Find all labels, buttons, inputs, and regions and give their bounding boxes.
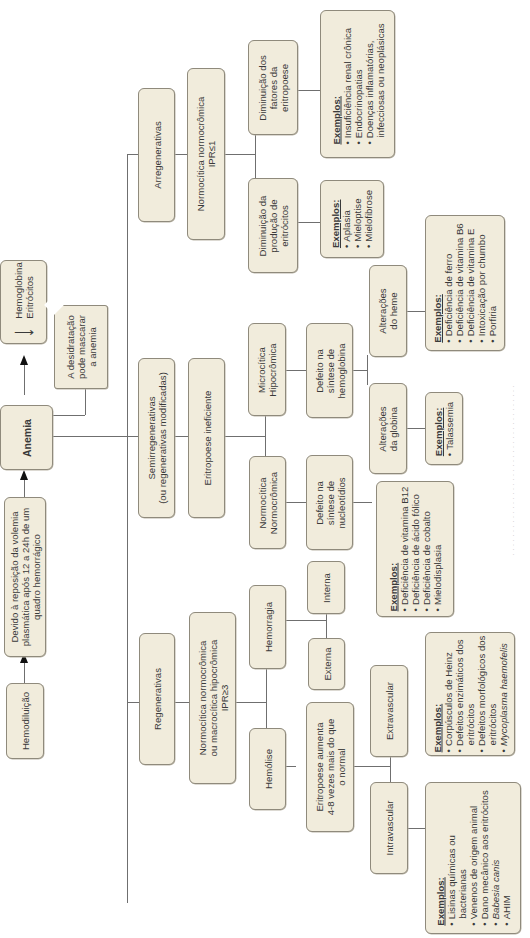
semirregenerativas-box: Semirregenerativas (ou regenerativas mod… [138,358,175,518]
reg-morph-to-split [236,702,266,703]
globina-examples: Exemplos: •Talassemia [425,392,463,465]
extravascular-box: Extravascular [370,665,408,757]
defect-nucleotides-box: Defeito na síntese de nucleotídios [306,455,353,550]
intravascular-examples: Exemplos: •Lisinas químicas ou bacterian… [425,782,521,934]
reg-morphology-box: Normocítica normocrômica ou macrocítica … [189,612,236,784]
production-to-examples [298,222,320,223]
hemodilution-to-cause-line [24,663,25,685]
semi-split [265,415,266,457]
anemia-label: Anemia [21,419,32,457]
folded-corner [44,295,64,315]
anemia-to-note-line [53,415,85,416]
anemia-to-spine [53,436,127,437]
arrow-up-icon [20,355,28,365]
regenerativas-box: Regenerativas [139,633,175,765]
heme-examples: Exemplos: •Deficiência de ferro •Deficiê… [425,215,505,351]
globina-alterations-box: Alterações da globina [369,383,407,474]
hemorragia-box: Hemorragia [249,585,286,669]
heme-alterations-box: Alterações do heme [369,265,407,357]
externa-box: Externa [308,638,345,690]
anemia-root-box: Anemia [0,405,53,470]
nucleotides-examples: Exemplos: •Deficiência de vitamina B12 •… [376,481,454,617]
dehydration-note-box: A desidratação pode mascarar a anemia [54,305,108,389]
anemia-to-definition-line [24,365,25,395]
spine-line [127,154,128,903]
anemia-to-note-line-v [85,385,86,415]
hemodilution-box: Hemodiluição [6,683,44,759]
figure-caption: · · · · · · · · · · · · · · · · · · · · … [508,20,518,920]
factors-to-examples [298,90,320,91]
definition-text: ⟶ Hemoglobina Eritrócitos [13,262,35,342]
arreg-morph-to-split [225,154,255,155]
arrow-up-icon [20,470,28,480]
arregenerativas-box: Arregenerativas [138,88,175,222]
cause-box: Devido à reposição da volemia plasmática… [4,497,46,657]
globina-to-examples [407,428,425,429]
hemorragia-to-split [286,620,326,621]
microcitica-box: Microcítica Hipocrômica [248,323,286,416]
micro-to-defect [286,370,306,371]
defect-hemoglobin-box: Defeito na síntese de hemoglobina [306,323,353,418]
eritropoese-ineficiente-box: Eritropoese ineficiente [188,358,225,518]
normo-to-defect [286,502,306,503]
definition-box: ⟶ Hemoglobina Eritrócitos [0,260,47,344]
hb-split [367,355,368,385]
normocitica-box: Normocítica Normocrômica [249,456,286,549]
arreg-morphology-box: Normocítica normocrômica IPR≤1 [187,68,225,240]
eritropoese-aumenta-box: Eritropoese aumenta 4-8 vezes mais do qu… [306,702,354,832]
decreased-production-examples: Exemplos: •Aplasia •Mieloptise •Mielofib… [320,180,384,258]
hemodilution-label: Hemodiluição [20,692,31,750]
intravascular-box: Intravascular [370,782,408,874]
heme-to-examples [407,311,425,312]
hemolise-box: Hemólise [249,728,286,810]
decreased-production-box: Diminuição da produção de eritrócitos [248,178,298,273]
extravascular-examples: Exemplos: •Corpúsculos de Heinz •Defeito… [425,632,515,756]
hemolise-to-response [286,766,296,767]
decreased-factors-examples: Exemplos: •Insuficiência renal crônica •… [320,10,395,158]
response-to-split [354,766,390,767]
down-arrow-icon: ⟶ [14,321,34,343]
interna-box: Interna [307,561,345,614]
decreased-factors-box: Diminuição dos fatores da eritropoese [248,40,298,135]
mech-to-split [225,436,265,437]
